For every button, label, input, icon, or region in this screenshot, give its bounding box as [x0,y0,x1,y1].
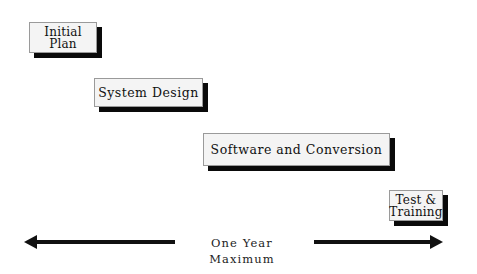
left-arrow-shaft [35,240,175,244]
phase-initial-plan: Initial Plan [29,22,97,53]
right-arrowhead-icon [430,235,443,249]
right-arrow-shaft [314,240,432,244]
phase-software-and-conversion: Software and Conversion [203,133,390,166]
phase-system-design: System Design [94,78,203,107]
phase-test-and-training: Test & Training [389,190,443,221]
timeline-axis: One Year Maximum [0,232,477,254]
timeline-label: One Year Maximum [177,235,307,267]
